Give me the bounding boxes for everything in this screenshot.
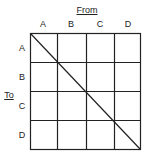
matrix-grid (0, 0, 147, 155)
